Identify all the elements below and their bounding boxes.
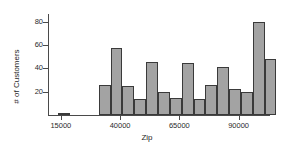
histogram-bar (158, 92, 170, 115)
y-axis-tick-label-wrap: 80 (0, 18, 43, 26)
x-axis-tick-mark (120, 115, 121, 120)
y-axis-tick-label: 40 (21, 64, 43, 72)
histogram-bar (194, 99, 206, 115)
histogram-bar (265, 59, 277, 115)
histogram-chart: # of Customers 20406080 1500040000650009… (0, 0, 294, 151)
x-axis-title: Zip (0, 133, 294, 142)
y-axis-tick-label: 80 (21, 18, 43, 26)
histogram-bar (134, 99, 146, 115)
x-axis-tick-mark (239, 115, 240, 120)
plot-area (49, 15, 267, 115)
x-axis-tick-mark (179, 115, 180, 120)
histogram-bar (205, 85, 217, 115)
histogram-bar (217, 67, 229, 115)
y-axis-tick-label-wrap: 40 (0, 64, 43, 72)
histogram-bar (253, 22, 265, 115)
histogram-bar (229, 89, 241, 115)
histogram-bar (170, 98, 182, 115)
x-axis-tick-mark (61, 115, 62, 120)
x-axis-tick-label: 90000 (217, 122, 261, 130)
x-axis-tick-label: 15000 (39, 122, 83, 130)
histogram-bar (182, 63, 194, 115)
histogram-bar (58, 113, 70, 115)
y-axis-tick-label: 20 (21, 88, 43, 96)
x-axis-tick-label: 65000 (157, 122, 201, 130)
histogram-bar (146, 62, 158, 115)
histogram-bar (99, 85, 111, 115)
histogram-bar (122, 86, 134, 115)
y-axis-tick-label: 60 (21, 41, 43, 49)
y-axis-tick-label-wrap: 60 (0, 41, 43, 49)
x-axis-line (48, 115, 270, 116)
y-axis-tick-label-wrap: 20 (0, 88, 43, 96)
x-axis-tick-label: 40000 (98, 122, 142, 130)
histogram-bar (241, 92, 253, 115)
histogram-bar (111, 48, 123, 115)
